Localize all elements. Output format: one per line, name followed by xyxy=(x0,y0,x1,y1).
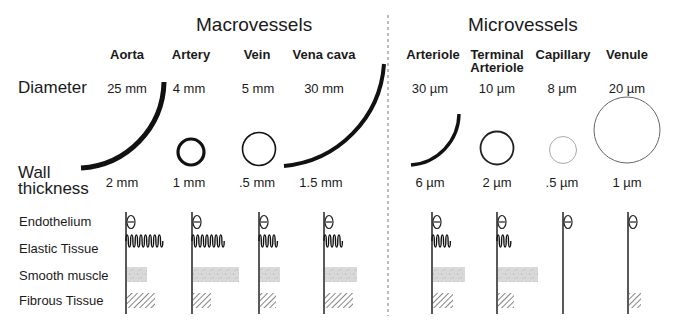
arteriole-cross-section xyxy=(411,114,459,165)
vessel-name-capillary: Capillary xyxy=(533,48,593,61)
vessel-name-vena-cava: Vena cava xyxy=(287,48,361,61)
fibrous-tissue-block xyxy=(325,293,353,308)
vessel-name-aorta: Aorta xyxy=(105,48,149,61)
wall-vena-cava: 1.5 mm xyxy=(293,175,349,190)
elastic-tissue-wave xyxy=(259,235,277,247)
tissue-stack-vein xyxy=(259,212,280,314)
elastic-tissue-wave xyxy=(192,235,224,247)
artery-cross-section xyxy=(178,139,204,165)
diameter-artery: 4 mm xyxy=(167,81,211,96)
diameter-venule: 20 µm xyxy=(602,81,652,96)
microvessels-title: Microvessels xyxy=(468,14,578,36)
wall-terminal-arteriole: 2 µm xyxy=(477,175,517,190)
diameter-vena-cava: 30 mm xyxy=(297,81,351,96)
vein-cross-section xyxy=(243,133,276,166)
elastic-tissue-wave xyxy=(126,235,163,247)
fibrous-tissue-block xyxy=(260,293,276,308)
elastic-tissue-wave xyxy=(497,235,511,247)
tissue-label-fibrous: Fibrous Tissue xyxy=(19,293,104,308)
vessel-name-arteriole-line2: Arteriole xyxy=(470,60,523,75)
terminal-arteriole-cross-section xyxy=(481,132,514,165)
vessel-name-arteriole: Arteriole xyxy=(403,48,463,61)
wall-capillary: .5 µm xyxy=(540,175,584,190)
tissue-stack-artery xyxy=(192,212,239,314)
capillary-cross-section xyxy=(550,137,577,164)
wall-thickness-label-line2: thickness xyxy=(18,181,89,197)
wall-artery: 1 mm xyxy=(167,175,211,190)
venule-cross-section xyxy=(594,97,660,163)
wall-aorta: 2 mm xyxy=(100,175,144,190)
tissue-stack-venule xyxy=(628,212,641,314)
diameter-aorta: 25 mm xyxy=(100,81,154,96)
elastic-tissue-wave xyxy=(324,235,342,247)
smooth-muscle-block xyxy=(127,267,147,282)
fibrous-tissue-block xyxy=(498,293,514,308)
macrovessels-title: Macrovessels xyxy=(196,14,312,36)
fibrous-tissue-block xyxy=(433,293,453,308)
diameter-vein: 5 mm xyxy=(236,81,280,96)
vessel-name-venule: Venule xyxy=(601,48,653,61)
diameter-capillary: 8 µm xyxy=(540,81,584,96)
diameter-label: Diameter xyxy=(18,80,87,96)
vena-cava-cross-section xyxy=(284,64,384,166)
smooth-muscle-block xyxy=(260,267,280,282)
tissue-label-smooth-muscle: Smooth muscle xyxy=(19,268,109,283)
wall-vein: .5 mm xyxy=(232,175,282,190)
tissue-stack-aorta xyxy=(126,212,163,314)
tissue-stack-capillary xyxy=(563,212,572,314)
tissue-stack-terminal xyxy=(497,212,538,314)
smooth-muscle-block xyxy=(433,267,465,282)
fibrous-tissue-block xyxy=(127,293,155,308)
diameter-arteriole: 30 µm xyxy=(405,81,455,96)
tissue-label-endothelium: Endothelium xyxy=(19,214,91,229)
vessel-name-vein: Vein xyxy=(240,48,274,61)
tissue-stack-arteriole xyxy=(432,212,465,314)
diameter-terminal-arteriole: 10 µm xyxy=(472,81,522,96)
fibrous-tissue-block xyxy=(193,293,211,308)
vessel-name-artery: Artery xyxy=(166,48,216,61)
wall-arteriole: 6 µm xyxy=(410,175,450,190)
smooth-muscle-block xyxy=(498,267,538,282)
elastic-tissue-wave xyxy=(432,235,450,247)
vessel-name-terminal-arteriole: Terminal Arteriole xyxy=(467,48,527,74)
tissue-stack-vena-cava xyxy=(324,212,357,314)
tissue-label-elastic: Elastic Tissue xyxy=(19,241,98,256)
smooth-muscle-block xyxy=(193,267,239,282)
wall-venule: 1 µm xyxy=(607,175,647,190)
fibrous-tissue-block xyxy=(629,293,641,308)
smooth-muscle-block xyxy=(325,267,357,282)
